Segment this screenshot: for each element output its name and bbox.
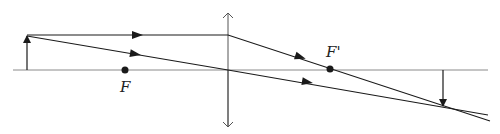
- front-focal-label: F: [119, 78, 131, 96]
- ray-direction-arrow-icon: [129, 49, 141, 59]
- central-ray: [27, 36, 488, 115]
- ray-direction-arrow-icon: [301, 77, 313, 87]
- back-focal-point: [327, 66, 334, 73]
- ray-direction-arrow-icon: [294, 52, 307, 63]
- ray-diagram: F F': [0, 0, 500, 134]
- back-focal-label: F': [325, 43, 341, 61]
- front-focal-point: [122, 67, 129, 74]
- ray-direction-arrow-icon: [132, 31, 143, 39]
